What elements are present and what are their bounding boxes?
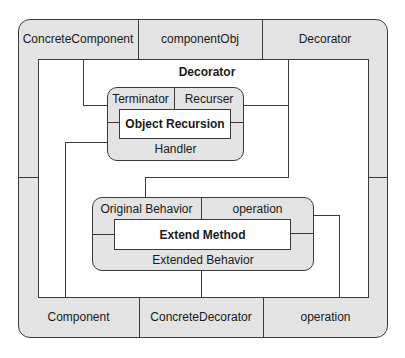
top-cell-component-obj: componentObj <box>138 19 262 59</box>
divider <box>18 177 38 178</box>
original-behavior-label: Original Behavior <box>92 199 201 219</box>
bottom-cell-operation: operation <box>263 297 388 337</box>
divider <box>139 297 140 337</box>
handler-label: Handler <box>107 139 244 159</box>
extended-behavior-label: Extended Behavior <box>92 250 314 270</box>
bottom-cell-component: Component <box>18 297 139 337</box>
handler-recurser-label: Recurser <box>175 89 243 109</box>
connector <box>145 177 146 197</box>
connector <box>65 142 107 143</box>
divider <box>263 297 264 337</box>
top-cell-decorator: Decorator <box>262 19 388 59</box>
operation-label: operation <box>202 199 313 219</box>
bottom-cell-concrete-decorator: ConcreteDecorator <box>139 297 263 337</box>
connector <box>83 105 107 106</box>
connector <box>145 177 289 178</box>
connector <box>92 234 114 235</box>
connector <box>290 233 313 234</box>
connector <box>83 59 84 106</box>
extend-method-box: Extend Method <box>114 219 291 250</box>
connector <box>313 215 339 216</box>
connector <box>65 142 66 298</box>
handler-terminator-label: Terminator <box>107 89 174 109</box>
divider <box>262 19 263 59</box>
divider <box>138 19 139 59</box>
top-cell-concrete-component: ConcreteComponent <box>18 19 138 59</box>
connector <box>288 59 289 178</box>
connector <box>201 270 202 298</box>
connector <box>243 105 288 106</box>
connector <box>230 122 243 123</box>
connector <box>107 122 119 123</box>
object-recursion-box: Object Recursion <box>119 109 231 139</box>
divider <box>368 177 388 178</box>
connector <box>339 215 340 298</box>
center-title: Decorator <box>107 62 307 82</box>
